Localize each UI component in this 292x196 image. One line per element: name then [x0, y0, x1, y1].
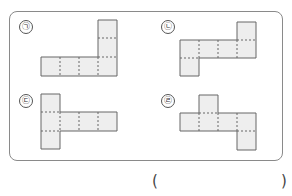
answer-open-paren: ( [152, 172, 158, 190]
cube-nets [0, 0, 292, 196]
answer-blank[interactable] [165, 174, 277, 192]
answer-close-paren: ) [281, 172, 287, 190]
net-a [41, 20, 117, 76]
